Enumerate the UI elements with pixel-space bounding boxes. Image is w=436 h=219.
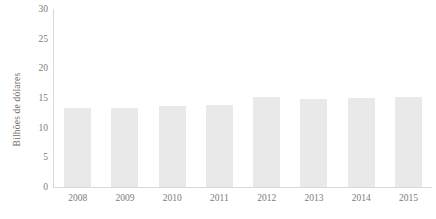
bar (111, 108, 138, 188)
bar-chart: Bilhões de dólares 051015202530 20082009… (0, 0, 436, 219)
y-tick-label: 15 (26, 93, 48, 103)
x-tick-label: 2014 (338, 192, 384, 204)
bar (348, 98, 375, 187)
x-tick-label: 2015 (385, 192, 431, 204)
y-tick-label: 5 (26, 152, 48, 162)
y-axis-tick-labels: 051015202530 (26, 0, 48, 219)
y-tick-label: 20 (26, 63, 48, 73)
x-tick-label: 2009 (102, 192, 148, 204)
y-axis-title: Bilhões de dólares (10, 0, 24, 219)
plot-area (54, 9, 432, 187)
x-tick-label: 2011 (196, 192, 242, 204)
bar (206, 105, 233, 187)
y-tick-label: 25 (26, 34, 48, 44)
x-tick-label: 2013 (291, 192, 337, 204)
y-tick-label: 0 (26, 182, 48, 192)
bar (395, 97, 422, 187)
y-tick-label: 30 (26, 4, 48, 14)
x-tick-label: 2008 (55, 192, 101, 204)
y-tick-label: 10 (26, 123, 48, 133)
x-tick-label: 2010 (149, 192, 195, 204)
bar (253, 97, 280, 187)
x-tick-label: 2012 (244, 192, 290, 204)
bar (159, 106, 186, 187)
bar (300, 99, 327, 187)
bar (64, 108, 91, 187)
x-axis-tick-labels: 20082009201020112012201320142015 (54, 192, 432, 206)
x-axis-line (53, 187, 432, 188)
